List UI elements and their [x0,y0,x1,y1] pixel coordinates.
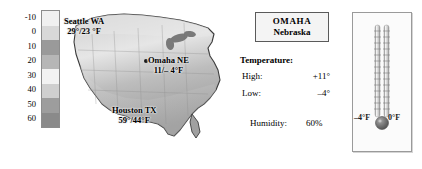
map-florida [190,114,200,138]
color-scale-swatch [42,113,59,128]
low-temperature-row: Low: –4° [242,88,340,99]
map-label-seattle-temp: 29°/23 °F [64,27,104,37]
color-scale-swatch [42,26,59,41]
temperature-color-scale: -100102030405060 [8,8,64,130]
humidity-label: Humidity: [250,118,287,128]
thermometer-panel: –4°F 0°F [352,12,412,152]
color-scale-tick-labels: -100102030405060 [8,8,38,130]
temperature-heading: Temperature: [240,55,348,65]
map-label-omaha: Omaha NE 11/– 4°F [148,56,189,76]
city-info-panel: OMAHA Nebraska Temperature: High: +11° L… [236,6,348,164]
humidity-row: Humidity: 60% [250,118,346,129]
color-scale-tick: 60 [28,114,37,123]
high-temperature-label: High: [242,71,263,81]
thermometer-label-right: 0°F [388,113,400,122]
city-header-box: OMAHA Nebraska [255,12,329,42]
map-label-omaha-temp: 11/– 4°F [148,66,189,76]
color-scale-tick: 10 [28,42,37,51]
color-scale-bar [41,10,60,128]
state-name-heading: Nebraska [258,27,326,37]
color-scale-swatch [42,69,59,84]
thermometer-graphic [353,13,411,151]
color-scale-swatch [42,55,59,70]
color-scale-swatch [42,40,59,55]
color-scale-tick: 0 [32,27,36,36]
map-label-houston: Houston TX 59°/44°F [112,106,156,126]
color-scale-tick: 40 [28,85,37,94]
thermometer-bulb [376,117,389,130]
color-scale-tick: 50 [28,100,37,109]
city-name-heading: OMAHA [258,16,326,26]
high-temperature-row: High: +11° [242,71,340,82]
humidity-value: 60% [306,118,323,128]
color-scale-tick: -10 [25,13,36,22]
weather-map-widget: -100102030405060 [0,0,422,169]
thermometer-label-left: –4°F [354,113,370,122]
thermometer-bulb-highlight [378,119,381,122]
low-temperature-value: –4° [300,88,330,98]
color-scale-swatch [42,11,59,26]
low-temperature-label: Low: [242,88,261,98]
color-scale-tick: 30 [28,71,37,80]
map-label-seattle: Seattle WA 29°/23 °F [64,17,104,37]
high-temperature-value: +11° [300,71,330,81]
us-map: Seattle WA 29°/23 °F Omaha NE 11/– 4°F H… [62,4,234,152]
color-scale-swatch [42,98,59,113]
color-scale-tick: 20 [28,56,37,65]
map-label-houston-temp: 59°/44°F [112,116,156,126]
color-scale-swatch [42,84,59,99]
